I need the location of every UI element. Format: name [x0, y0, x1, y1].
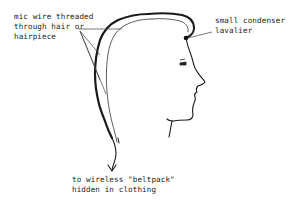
wire-label-line-3: hairpiece: [14, 32, 93, 42]
wire-label-line-2: through hair or: [14, 22, 93, 32]
hair-outline: [95, 14, 148, 138]
diagram-canvas: mic wire threaded through hair or hairpi…: [0, 0, 299, 204]
beltpack-label-line-2: hidden in clothing: [72, 185, 175, 195]
beltpack-label: to wireless "beltpack" hidden in clothin…: [72, 175, 175, 195]
wire-label: mic wire threaded through hair or hairpi…: [14, 12, 93, 42]
beltpack-label-line-1: to wireless "beltpack": [72, 175, 175, 185]
hairline-inner: [106, 19, 152, 142]
face-profile: [167, 38, 205, 121]
neck-line: [169, 121, 172, 137]
mic-label-line-2: lavalier: [215, 26, 285, 36]
hair-strand: [118, 138, 119, 143]
mic-label-line-1: small condenser: [215, 16, 285, 26]
hairline-top-inner: [152, 19, 188, 32]
mic-label: small condenser lavalier: [215, 16, 285, 36]
wire-label-line-1: mic wire threaded: [14, 12, 93, 22]
eye-icon: [180, 59, 186, 65]
